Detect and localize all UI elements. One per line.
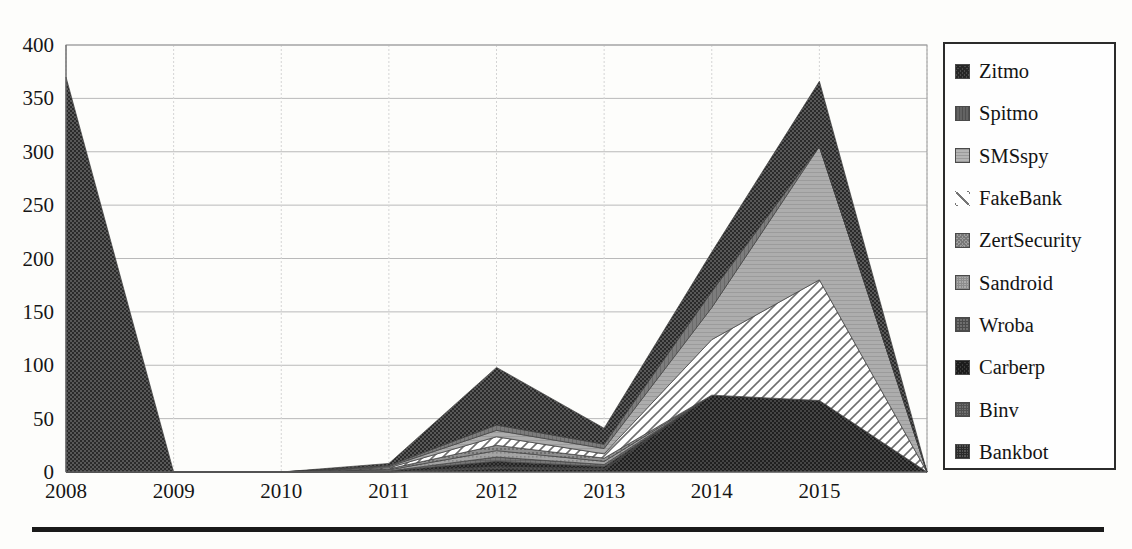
y-axis-tick-label: 350 [23, 86, 55, 110]
legend-item-binv[interactable]: Binv [945, 388, 1114, 430]
legend-label: Spitmo [979, 103, 1038, 123]
light-dot-swatch-icon [955, 275, 970, 290]
legend-item-spitmo[interactable]: Spitmo [945, 92, 1114, 134]
legend-label: Binv [979, 400, 1019, 420]
y-axis-tick-label: 150 [23, 300, 55, 324]
dark-crosshatch-swatch-icon [955, 64, 970, 79]
x-axis-tick-label: 2011 [368, 479, 409, 500]
legend-label: FakeBank [979, 188, 1062, 208]
dark-crosshatch-swatch-icon [955, 360, 970, 375]
y-axis-tick-label: 400 [23, 33, 55, 57]
y-axis-tick-label: 300 [23, 140, 55, 164]
legend-label: Zitmo [979, 61, 1029, 81]
legend-label: Carberp [979, 357, 1045, 377]
x-axis-tick-label: 2014 [691, 479, 734, 500]
legend-label: Wroba [979, 315, 1034, 335]
x-axis-tick-label: 2010 [260, 479, 302, 500]
light-gray-swatch-icon [955, 148, 970, 163]
legend-item-carberp[interactable]: Carberp [945, 346, 1114, 388]
bottom-horizontal-rule [32, 527, 1104, 532]
legend-item-bankbot[interactable]: Bankbot [945, 431, 1114, 473]
legend-label: SMSspy [979, 146, 1049, 166]
mid-dot-swatch-icon [955, 402, 970, 417]
figure-root: 050100150200250300350400 200820092010201… [0, 0, 1132, 549]
y-axis-tick-label: 200 [23, 247, 55, 271]
x-axis-tick-label: 2013 [583, 479, 625, 500]
mid-gray-texture-swatch-icon [955, 233, 970, 248]
legend-item-fakebank[interactable]: FakeBank [945, 177, 1114, 219]
x-axis-tick-label: 2012 [476, 479, 518, 500]
legend-item-zertsecurity[interactable]: ZertSecurity [945, 219, 1114, 261]
chart-legend: Zitmo Spitmo SMSspy FakeBank ZertSecurit… [943, 42, 1116, 470]
legend-label: Sandroid [979, 273, 1053, 293]
diagonal-line-swatch-icon [955, 191, 970, 206]
legend-label: Bankbot [979, 442, 1048, 462]
legend-item-zitmo[interactable]: Zitmo [945, 50, 1114, 92]
dark-gray-swatch-icon [955, 106, 970, 121]
gray-grid-swatch-icon [955, 317, 970, 332]
x-axis-tick-label: 2008 [45, 479, 87, 500]
dark-dot-swatch-icon [955, 444, 970, 459]
y-axis-tick-label: 100 [23, 353, 55, 377]
y-axis-tick-labels: 050100150200250300350400 [23, 33, 55, 484]
x-axis-tick-label: 2009 [153, 479, 195, 500]
y-axis-tick-label: 50 [33, 407, 54, 431]
y-axis-tick-label: 250 [23, 193, 55, 217]
legend-item-wroba[interactable]: Wroba [945, 304, 1114, 346]
legend-item-smsspy[interactable]: SMSspy [945, 135, 1114, 177]
x-axis-tick-labels: 20082009201020112012201320142015 [45, 479, 840, 500]
legend-item-sandroid[interactable]: Sandroid [945, 261, 1114, 303]
legend-label: ZertSecurity [979, 230, 1081, 250]
x-axis-tick-label: 2015 [798, 479, 840, 500]
